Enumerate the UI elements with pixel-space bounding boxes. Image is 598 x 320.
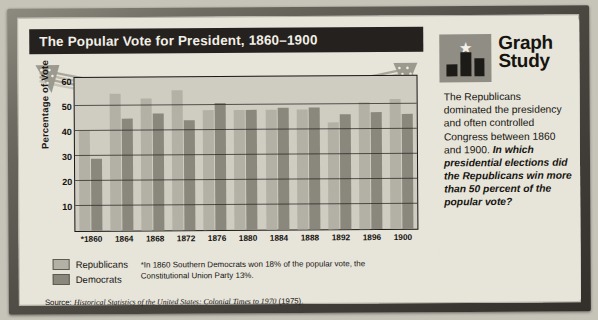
bar-democrats-1868 xyxy=(153,113,165,231)
legend-item-democrats: Democrats xyxy=(53,274,128,285)
icon-bar-3 xyxy=(474,58,484,76)
bar-democrats-1900 xyxy=(402,114,414,229)
legend-item-republicans: Republicans xyxy=(53,259,128,270)
chart-title-bar: The Popular Vote for President, 1860–190… xyxy=(29,27,423,54)
chart-footnote: *In 1860 Southern Democrats won 18% of t… xyxy=(141,259,381,282)
x-tick-1868: 1868 xyxy=(146,233,165,243)
graph-study-header: ★ Graph Study xyxy=(437,20,579,83)
bar-democrats-1860 xyxy=(91,158,102,231)
bar-republicans-1896 xyxy=(358,102,370,230)
bar-democrats-1872 xyxy=(184,120,196,230)
x-tick-1896: 1896 xyxy=(363,232,382,242)
x-tick-1860: *1860 xyxy=(81,234,103,244)
bar-republicans-1868 xyxy=(141,98,153,231)
bar-republicans-1900 xyxy=(389,99,401,229)
legend-label-democrats: Democrats xyxy=(76,274,122,285)
bar-republicans-1880 xyxy=(234,110,246,230)
bar-democrats-1876 xyxy=(215,103,227,231)
bar-republicans-1864 xyxy=(110,93,122,231)
bar-democrats-1892 xyxy=(339,114,351,229)
bar-democrats-1864 xyxy=(122,118,134,231)
bar-republicans-1872 xyxy=(172,90,184,230)
x-tick-1884: 1884 xyxy=(270,233,289,243)
plot-area xyxy=(73,75,418,232)
y-tick-60: 60 xyxy=(49,77,71,87)
bar-republicans-1884 xyxy=(265,110,277,230)
x-tick-1892: 1892 xyxy=(332,232,351,242)
bar-democrats-1884 xyxy=(277,107,289,230)
graph-study-title: Graph Study xyxy=(498,34,553,71)
bar-chart-star-icon: ★ xyxy=(439,34,491,82)
x-axis-ticks: *186018641868187218761880188418881892189… xyxy=(74,232,418,244)
x-tick-1880: 1880 xyxy=(239,233,258,243)
legend-label-republicans: Republicans xyxy=(76,259,128,270)
graph-study-title-line2: Study xyxy=(498,52,553,71)
x-tick-1900: 1900 xyxy=(394,232,413,242)
page-title: The Popular Vote for President, 1860–190… xyxy=(29,32,317,49)
legend: Republicans Democrats xyxy=(53,259,128,289)
source-year: (1975). xyxy=(279,297,304,306)
bar-democrats-1888 xyxy=(308,107,320,230)
y-tick-30: 30 xyxy=(50,152,72,162)
legend-swatch-democrats xyxy=(53,274,70,285)
x-tick-1876: 1876 xyxy=(208,233,227,243)
icon-bar-1 xyxy=(446,64,457,76)
bar-democrats-1896 xyxy=(370,112,382,230)
x-tick-1888: 1888 xyxy=(301,232,320,242)
y-axis-ticks: 605040302010 xyxy=(47,77,72,232)
y-tick-40: 40 xyxy=(50,127,72,137)
legend-swatch-republicans xyxy=(53,259,70,270)
icon-bar-2 xyxy=(460,52,471,76)
y-tick-50: 50 xyxy=(50,102,72,112)
x-tick-1864: 1864 xyxy=(115,234,134,244)
source-title: Historical Statistics of the United Stat… xyxy=(74,297,277,307)
y-tick-10: 10 xyxy=(50,202,72,212)
x-tick-1872: 1872 xyxy=(177,233,196,243)
y-tick-20: 20 xyxy=(50,177,72,187)
scanned-textbook-figure: The Popular Vote for President, 1860–190… xyxy=(0,0,598,320)
graph-study-body: The Republicans dominated the presidency… xyxy=(438,82,581,209)
graph-study-panel: ★ Graph Study The Republicans dominated … xyxy=(437,20,581,301)
bar-republicans-1892 xyxy=(327,122,339,230)
source-prefix: Source: xyxy=(45,298,72,307)
chart-panel: The Popular Vote for President, 1860–190… xyxy=(21,19,435,302)
